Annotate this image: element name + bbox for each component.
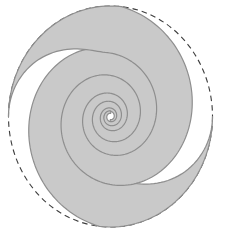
figure-canvas bbox=[0, 0, 225, 234]
spiral-figure bbox=[0, 0, 225, 234]
